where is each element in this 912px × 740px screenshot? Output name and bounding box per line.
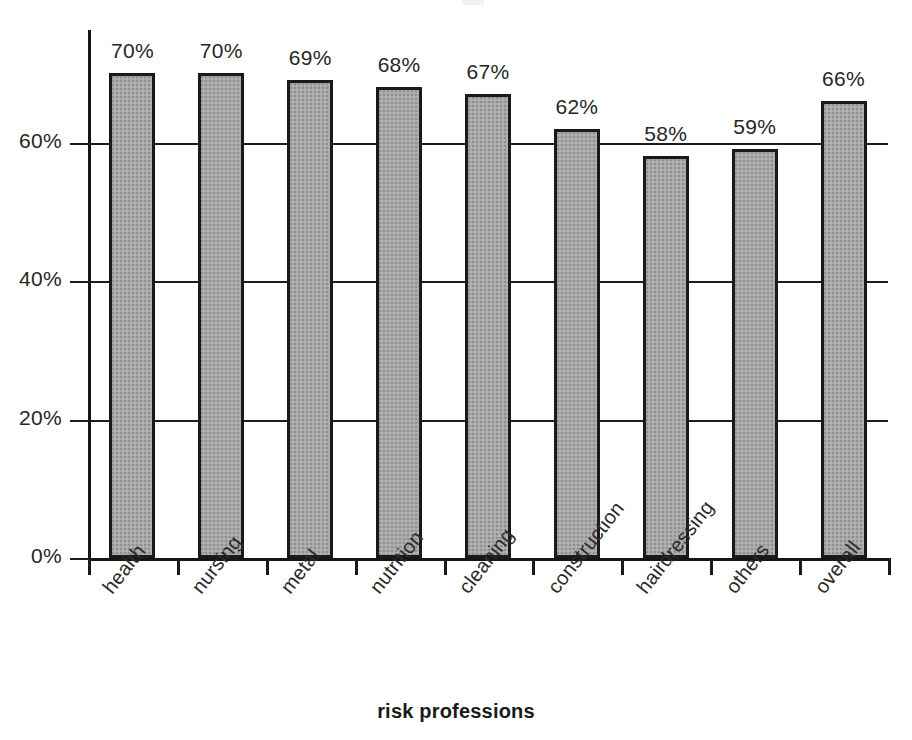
bar-value-label-hairdressing: 58% (621, 122, 711, 146)
bar-health (109, 73, 155, 558)
bar-others (732, 149, 778, 558)
bar-hairdressing (643, 156, 689, 558)
bar-value-label-overall: 66% (799, 67, 889, 91)
x-axis-tick-mark (621, 558, 624, 575)
x-axis-category-label-health: health (98, 540, 150, 598)
x-axis-tick-mark (799, 558, 802, 575)
x-axis-tick-mark (532, 558, 535, 575)
x-axis-tick-mark (355, 558, 358, 575)
scan-artifact (462, 0, 484, 5)
y-axis-tick-label: 0% (0, 544, 62, 568)
y-axis-tick-label: 60% (0, 129, 62, 153)
x-axis-tick-mark (88, 558, 91, 575)
bar-value-label-cleaning: 67% (443, 60, 533, 84)
bar-value-label-others: 59% (710, 115, 800, 139)
bar-overall (821, 101, 867, 558)
x-axis-category-label-metal: metal (276, 545, 325, 598)
x-axis-tick-mark (177, 558, 180, 575)
y-axis-tick-label: 40% (0, 267, 62, 291)
bar-cleaning (465, 94, 511, 558)
y-axis-tick-mark (70, 143, 88, 145)
bar-value-label-metal: 69% (265, 46, 355, 70)
x-axis-tick-mark (444, 558, 447, 575)
bar-value-label-nursing: 70% (176, 39, 266, 63)
y-axis-tick-mark (70, 420, 88, 422)
bar-nursing (198, 73, 244, 558)
bar-construction (554, 129, 600, 558)
bar-chart: 60%40%20%0% 70%70%69%68%67%62%58%59%66% … (0, 0, 912, 740)
x-axis-tick-mark (710, 558, 713, 575)
x-axis-title: risk professions (0, 700, 912, 723)
bar-metal (287, 80, 333, 558)
y-axis-tick-mark (70, 281, 88, 283)
bar-value-label-construction: 62% (532, 95, 622, 119)
x-axis-tick-mark (266, 558, 269, 575)
x-axis-tick-mark (888, 558, 891, 575)
bar-value-label-health: 70% (87, 39, 177, 63)
y-axis-spine (88, 30, 91, 570)
y-axis-tick-label: 20% (0, 406, 62, 430)
bar-nutrition (376, 87, 422, 558)
bar-value-label-nutrition: 68% (354, 53, 444, 77)
y-axis-tick-mark (70, 558, 88, 560)
